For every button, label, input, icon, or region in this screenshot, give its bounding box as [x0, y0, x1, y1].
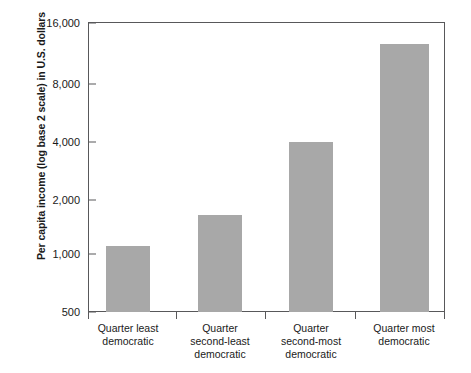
y-tick-mark-16000 [89, 23, 96, 24]
y-tick-label-1000: 1,000 [20, 248, 80, 260]
x-label-line-2: second-least [190, 335, 250, 348]
y-axis-tick-labels: 16,000 8,000 4,000 2,000 1,000 500 [12, 0, 80, 373]
y-tick-mark-8000 [89, 84, 96, 85]
y-tick-label-500: 500 [20, 306, 80, 318]
y-tick-mark-500 [89, 312, 96, 313]
x-label-line-1: Quarter most [373, 322, 434, 335]
x-label-line-1: Quarter [190, 322, 250, 335]
x-label-line-1: Quarter [281, 322, 341, 335]
x-tick-mark-0 [88, 312, 89, 319]
x-tick-mark-3 [355, 312, 356, 319]
bar-quarter-second-least-democratic [198, 215, 242, 312]
x-tick-mark-4 [444, 312, 445, 319]
y-tick-label-4000: 4,000 [20, 136, 80, 148]
x-label-line-2: second-most [281, 335, 341, 348]
y-tick-mark-2000 [89, 200, 96, 201]
bar-quarter-second-most-democratic [289, 142, 333, 312]
x-tick-label-quarter-most-democratic: Quarter most democratic [373, 322, 434, 348]
y-tick-label-8000: 8,000 [20, 78, 80, 90]
y-tick-mark-4000 [89, 142, 96, 143]
x-tick-mark-1 [176, 312, 177, 319]
x-tick-label-quarter-second-most-democratic: Quarter second-most democratic [281, 322, 341, 361]
y-tick-mark-1000 [89, 254, 96, 255]
x-tick-label-quarter-second-least-democratic: Quarter second-least democratic [190, 322, 250, 361]
y-tick-label-16000: 16,000 [20, 17, 80, 29]
x-label-line-1: Quarter least [98, 322, 159, 335]
y-tick-label-2000: 2,000 [20, 194, 80, 206]
x-label-line-2: democratic [98, 335, 159, 348]
bar-quarter-most-democratic [380, 44, 429, 312]
x-label-line-3: democratic [281, 348, 341, 361]
x-label-line-2: democratic [373, 335, 434, 348]
x-tick-mark-2 [265, 312, 266, 319]
x-tick-label-quarter-least-democratic: Quarter least democratic [98, 322, 159, 348]
bar-chart: Per capita income (log base 2 scale) in … [0, 0, 471, 373]
x-label-line-3: democratic [190, 348, 250, 361]
y-axis-tick-marks [89, 0, 97, 373]
bar-quarter-least-democratic [106, 246, 150, 312]
